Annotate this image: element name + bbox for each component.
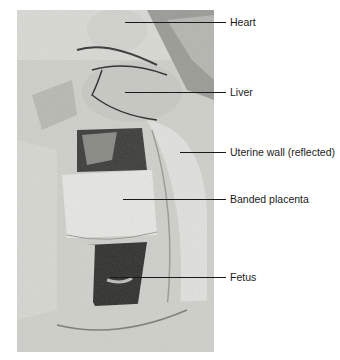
anatomy-label: Banded placenta: [230, 193, 309, 205]
photo-illustration: [17, 10, 214, 352]
leader-line: [123, 199, 226, 200]
anatomy-label: Heart: [230, 16, 256, 28]
leader-line: [180, 152, 226, 153]
anatomy-label: Liver: [230, 86, 253, 98]
anatomy-label: Fetus: [230, 271, 256, 283]
leader-line: [125, 92, 226, 93]
leader-line: [110, 277, 226, 278]
anatomy-label: Uterine wall (reflected): [230, 146, 335, 158]
leader-line: [125, 22, 226, 23]
anatomy-photograph: [17, 10, 214, 352]
